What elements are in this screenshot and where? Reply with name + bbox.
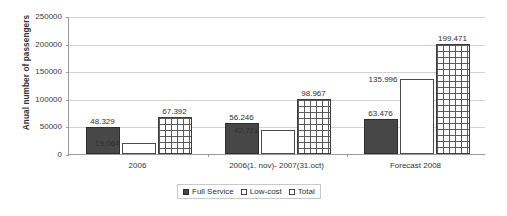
x-axis-tick-mark [208, 154, 209, 157]
y-axis-tick-mark [66, 155, 69, 156]
bar-chart: Anual number of passengers 0500001000001… [0, 0, 507, 216]
bar-value-label: 67.392 [151, 107, 199, 116]
y-axis-tick-label: 50000 [14, 123, 62, 131]
bar-value-label: 63.476 [357, 109, 405, 118]
bar-value-label: 48.329 [79, 117, 127, 126]
legend-item-label: Full Service [192, 187, 234, 196]
y-axis-tick-label: 250000 [14, 13, 62, 21]
legend-item-total[interactable]: Total [289, 187, 315, 196]
bar-value-label: 135.996 [360, 75, 398, 84]
y-axis-tick-label: 150000 [14, 68, 62, 76]
legend-swatch-icon [289, 189, 295, 195]
legend-swatch-icon [183, 189, 189, 195]
y-axis-tick-mark [66, 72, 69, 73]
x-axis-category-label: 2006 [68, 161, 207, 170]
y-axis-tick-mark [66, 100, 69, 101]
bar-value-label: 98.967 [290, 89, 338, 98]
bar-total [158, 117, 192, 154]
bar-low-cost [261, 130, 295, 154]
bar-value-label: 19.064 [82, 139, 120, 148]
gridline [69, 45, 485, 46]
y-axis-tick-mark [66, 127, 69, 128]
y-axis-tick-label: 100000 [14, 96, 62, 104]
x-axis-category-label: 2006(1. nov)- 2007(31.oct) [207, 161, 346, 170]
bar-value-label: 42.721 [221, 126, 259, 135]
gridline [69, 17, 485, 18]
y-axis-tick-mark [66, 45, 69, 46]
y-axis-tick-label: 0 [14, 151, 62, 159]
y-axis-tick-label: 200000 [14, 41, 62, 49]
legend-item-label: Low-cost [250, 187, 282, 196]
bar-value-label: 56.246 [218, 113, 266, 122]
bar-total [297, 99, 331, 154]
x-axis-tick-mark [347, 154, 348, 157]
gridline [69, 72, 485, 73]
y-axis-tick-labels: 050000100000150000200000250000 [14, 0, 62, 216]
legend-swatch-icon [241, 189, 247, 195]
bar-value-label: 199.471 [429, 34, 477, 43]
bar-low-cost [400, 79, 434, 154]
legend-item-label: Total [298, 187, 315, 196]
bar-low-cost [122, 143, 156, 154]
plot-area: 48.32919.06467.39256.24642.72198.96763.4… [68, 17, 485, 155]
y-axis-tick-mark [66, 17, 69, 18]
legend-item-low-cost[interactable]: Low-cost [241, 187, 282, 196]
bar-full-service [364, 119, 398, 154]
x-axis-category-label: Forecast 2008 [346, 161, 485, 170]
legend-item-full-service[interactable]: Full Service [183, 187, 234, 196]
chart-legend: Full ServiceLow-costTotal [177, 184, 321, 199]
bar-total [436, 44, 470, 154]
